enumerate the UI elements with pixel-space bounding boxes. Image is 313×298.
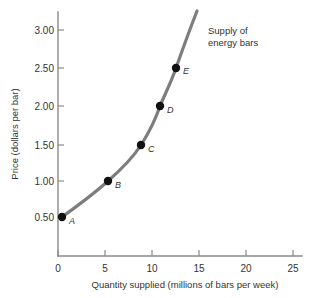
data-point-e [172, 64, 180, 72]
data-point-label-e: E [183, 66, 190, 76]
y-tick-label-1-50: 1.50 [35, 140, 55, 151]
data-point-label-d: D [167, 105, 174, 115]
x-tick-label-20: 20 [240, 263, 252, 274]
chart-canvas: 3.00 2.50 2.00 1.50 1.00 0.50 0 5 10 15 … [0, 0, 313, 298]
data-point-b [104, 177, 112, 185]
data-point-c [137, 141, 145, 149]
x-tick-label-5: 5 [102, 263, 108, 274]
data-point-a [58, 213, 66, 221]
data-point-label-c: C [148, 144, 155, 154]
data-point-d [156, 102, 164, 110]
y-tick-label-0-50: 0.50 [35, 212, 55, 223]
y-tick-label-2-00: 2.00 [35, 101, 55, 112]
y-tick-label-3-00: 3.00 [35, 25, 55, 36]
x-axis-title: Quantity supplied (millions of bars per … [92, 279, 279, 290]
y-tick-label-2-50: 2.50 [35, 63, 55, 74]
y-tick-label-1-00: 1.00 [35, 176, 55, 187]
curve-annotation-line1: Supply of [208, 25, 248, 36]
x-tick-label-25: 25 [287, 263, 299, 274]
supply-curve-figure: 3.00 2.50 2.00 1.50 1.00 0.50 0 5 10 15 … [0, 0, 313, 298]
data-point-label-a: A [68, 216, 75, 226]
curve-annotation-line2: energy bars [208, 37, 258, 48]
y-axis-title: Price (dollars per bar) [9, 88, 20, 179]
data-point-label-b: B [115, 180, 121, 190]
x-tick-label-0: 0 [55, 263, 61, 274]
x-tick-label-10: 10 [146, 263, 158, 274]
x-tick-label-15: 15 [193, 263, 205, 274]
